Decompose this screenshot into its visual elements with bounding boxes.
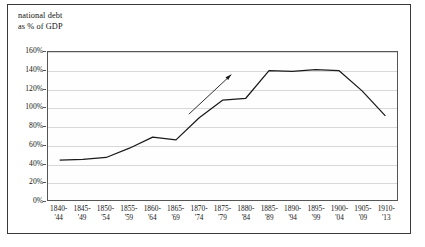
x-axis-tick-label: 1840-'44 <box>47 204 70 223</box>
x-axis-tick-label-line-2: '59 <box>117 214 140 224</box>
x-axis-tick-label-line-2: '99 <box>304 214 327 224</box>
plot-area <box>47 51 398 201</box>
x-axis-tick-label-line-2: '49 <box>70 214 93 224</box>
chart-figure: national debt as % of GDP 0%20%40%60%80%… <box>7 4 411 234</box>
y-axis-tick-label: 120% <box>25 85 43 93</box>
x-axis-tick-label-line-1: 1850- <box>94 204 117 214</box>
trend-arrow-shaft <box>189 75 232 115</box>
y-axis: 0%20%40%60%80%100%120%140%160% <box>8 45 46 207</box>
x-axis-tick-label-line-1: 1875- <box>211 204 234 214</box>
x-axis-tick-label: 1855-'59 <box>117 204 140 223</box>
y-axis-tick-mark <box>43 126 46 127</box>
y-axis-tick-mark <box>43 182 46 183</box>
series-line-national-debt <box>48 52 397 200</box>
x-axis-tick-label: 1880-'84 <box>234 204 257 223</box>
x-axis-tick-label: 1875-'79 <box>211 204 234 223</box>
y-axis-tick-label: 20% <box>29 178 43 186</box>
x-axis-tick-label-line-1: 1880- <box>234 204 257 214</box>
x-axis-tick-label: 1845-'49 <box>70 204 93 223</box>
x-axis-tick-label-line-1: 1910- <box>375 204 398 214</box>
chart-title: national debt as % of GDP <box>18 10 63 32</box>
x-axis-tick-label-line-1: 1890- <box>281 204 304 214</box>
x-axis-tick-label-line-1: 1865- <box>164 204 187 214</box>
y-axis-tick-label: 140% <box>25 66 43 74</box>
x-axis-tick-label: 1905-'09 <box>351 204 374 223</box>
chart-title-line-2: as % of GDP <box>18 21 63 32</box>
y-axis-tick-mark <box>43 51 46 52</box>
x-axis-tick-label: 1885-'89 <box>258 204 281 223</box>
x-axis-tick-label-line-2: '13 <box>375 214 398 224</box>
y-axis-tick-label: 80% <box>29 122 43 130</box>
chart-title-line-1: national debt <box>18 10 63 21</box>
x-axis-tick-label: 1870-'74 <box>187 204 210 223</box>
x-axis-tick-label-line-2: '74 <box>187 214 210 224</box>
x-axis-tick-label-line-1: 1855- <box>117 204 140 214</box>
y-axis-tick-label: 100% <box>25 103 43 111</box>
x-axis-tick-label-line-2: '04 <box>328 214 351 224</box>
x-axis-tick-label: 1900-'04 <box>328 204 351 223</box>
x-axis: 1840-'441845-'491850-'541855-'591860-'64… <box>47 204 398 232</box>
x-axis-tick-label-line-2: '69 <box>164 214 187 224</box>
x-axis-tick-label: 1850-'54 <box>94 204 117 223</box>
y-axis-tick-mark <box>43 145 46 146</box>
y-axis-tick-label: 0% <box>33 197 43 205</box>
x-axis-tick-label-line-2: '84 <box>234 214 257 224</box>
y-axis-tick-label: 40% <box>29 160 43 168</box>
x-axis-tick-label: 1910-'13 <box>375 204 398 223</box>
x-axis-tick-label-line-2: '44 <box>47 214 70 224</box>
x-axis-tick-label-line-1: 1870- <box>187 204 210 214</box>
x-axis-tick-label-line-1: 1860- <box>141 204 164 214</box>
x-axis-tick-label-line-2: '64 <box>141 214 164 224</box>
x-axis-tick-label-line-2: '54 <box>94 214 117 224</box>
x-axis-tick-label-line-2: '79 <box>211 214 234 224</box>
x-axis-tick-label-line-1: 1905- <box>351 204 374 214</box>
y-axis-tick-label: 60% <box>29 141 43 149</box>
x-axis-tick-label: 1865-'69 <box>164 204 187 223</box>
y-axis-tick-label: 160% <box>25 47 43 55</box>
y-axis-tick-mark <box>43 107 46 108</box>
x-axis-tick-label-line-2: '09 <box>351 214 374 224</box>
x-axis-tick-label: 1895-'99 <box>304 204 327 223</box>
x-axis-tick-label: 1860-'64 <box>141 204 164 223</box>
x-axis-tick-label-line-2: '89 <box>258 214 281 224</box>
x-axis-tick-label-line-1: 1885- <box>258 204 281 214</box>
y-axis-tick-mark <box>43 89 46 90</box>
y-axis-tick-mark <box>43 201 46 202</box>
x-axis-tick-label-line-2: '94 <box>281 214 304 224</box>
y-axis-tick-mark <box>43 164 46 165</box>
x-axis-tick-label-line-1: 1895- <box>304 204 327 214</box>
y-axis-tick-mark <box>43 70 46 71</box>
x-axis-tick-label-line-1: 1845- <box>70 204 93 214</box>
x-axis-tick-label-line-1: 1840- <box>47 204 70 214</box>
x-axis-tick-label: 1890-'94 <box>281 204 304 223</box>
x-axis-tick-label-line-1: 1900- <box>328 204 351 214</box>
